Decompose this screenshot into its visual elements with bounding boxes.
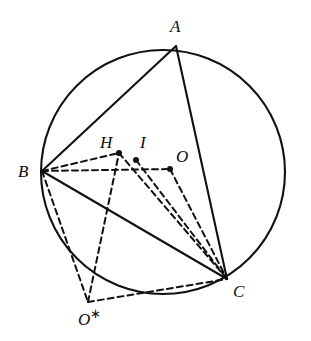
label-o: O	[176, 148, 188, 165]
point-dot-o	[167, 166, 173, 172]
dashed-segments-layer	[42, 153, 227, 302]
label-a: A	[170, 18, 180, 35]
asterisk-glyph: ∗	[90, 306, 101, 321]
label-i: I	[140, 134, 146, 151]
geometry-canvas	[0, 0, 311, 341]
segment-HC	[119, 153, 227, 279]
segment-BH	[42, 153, 119, 171]
label-c: C	[233, 283, 244, 300]
label-h: H	[100, 134, 112, 151]
geometry-figure: ABCHIOO∗	[0, 0, 311, 341]
segment-BOstar	[42, 171, 88, 302]
label-b: B	[18, 163, 28, 180]
point-dot-h	[116, 150, 122, 156]
circumcircle	[41, 50, 285, 294]
segment-BO	[42, 169, 170, 171]
segment-AB	[42, 46, 176, 171]
point-dot-i	[133, 157, 139, 163]
label-ostar: O∗	[78, 307, 101, 328]
